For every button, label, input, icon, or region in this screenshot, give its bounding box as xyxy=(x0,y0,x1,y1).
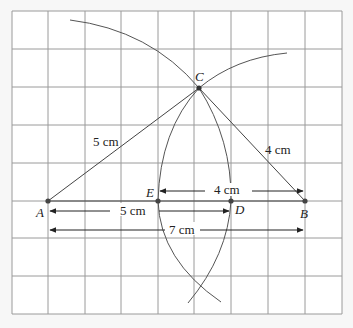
point-b xyxy=(302,198,307,203)
point-c xyxy=(196,85,201,90)
label-point-e: E xyxy=(145,185,154,200)
point-d xyxy=(228,198,233,203)
label-point-a: A xyxy=(35,205,44,220)
construction-diagram: 4 cm 5 cm 7 cm 5 cm 4 cm A B C D E xyxy=(0,0,353,328)
label-point-d: D xyxy=(234,202,245,217)
label-ab: 7 cm xyxy=(169,222,195,237)
point-e xyxy=(155,198,160,203)
point-a xyxy=(45,198,50,203)
label-eb: 4 cm xyxy=(214,182,240,197)
label-ad: 5 cm xyxy=(120,203,146,218)
diagram-canvas: 4 cm 5 cm 7 cm 5 cm 4 cm A B C D E xyxy=(0,0,353,328)
label-bc: 4 cm xyxy=(265,142,291,157)
label-point-c: C xyxy=(195,69,204,84)
label-ac: 5 cm xyxy=(93,134,119,149)
grid xyxy=(12,11,342,314)
label-point-b: B xyxy=(300,206,308,221)
